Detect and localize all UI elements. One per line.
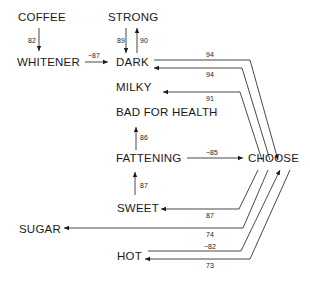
node-hot: HOT <box>117 251 142 263</box>
weight-choose-dark: 94 <box>206 71 214 78</box>
weight-sweet-fattening: 87 <box>140 182 148 189</box>
weight-hot-choose: −82 <box>204 243 216 250</box>
weight-choose-sweet: 87 <box>206 212 214 219</box>
weight-choose-sugar: 74 <box>206 231 214 238</box>
node-strong: STRONG <box>108 12 158 24</box>
weight-dark-choose: 94 <box>206 51 214 58</box>
node-dark: DARK <box>116 57 149 69</box>
edge-choose-hot <box>145 170 290 259</box>
node-choose: CHOOSE <box>248 153 299 165</box>
node-fattening: FATTENING <box>116 153 181 165</box>
weight-dark-strong: 90 <box>140 37 148 44</box>
weight-whitener-dark: −87 <box>88 52 100 59</box>
edge-choose-sugar <box>64 170 268 228</box>
weight-coffee-whitener: 82 <box>28 37 36 44</box>
weight-choose-milky: 91 <box>206 95 214 102</box>
weight-fattening-choose: −85 <box>206 149 218 156</box>
edge-choose-sweet <box>161 170 258 209</box>
node-sweet: SWEET <box>117 203 159 215</box>
node-coffee: COFFEE <box>18 12 66 24</box>
node-sugar: SUGAR <box>19 224 61 236</box>
weight-choose-hot: 73 <box>206 262 214 269</box>
weight-strong-dark: 89 <box>117 37 125 44</box>
diagram-edges <box>0 0 310 282</box>
weight-fattening-bad: 86 <box>140 134 148 141</box>
edge-hot-choose <box>148 170 280 251</box>
node-whitener: WHITENER <box>17 57 80 69</box>
node-milky: MILKY <box>116 82 152 94</box>
node-bad-for-health: BAD FOR HEALTH <box>116 107 218 119</box>
